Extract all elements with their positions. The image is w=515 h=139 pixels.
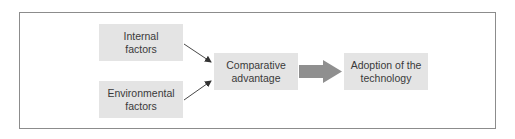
- node-environmental-factors: Environmental factors: [99, 81, 183, 118]
- node-comparative-advantage: Comparative advantage: [214, 53, 298, 90]
- node-adoption-of-technology: Adoption of the technology: [344, 53, 428, 90]
- node-internal-factors: Internal factors: [99, 24, 183, 61]
